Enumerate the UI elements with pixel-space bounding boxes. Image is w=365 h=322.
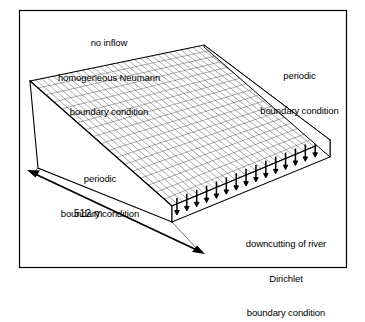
domain-length-label: 512 m — [58, 208, 118, 220]
periodic-boundary-right-label: periodic boundary condition — [247, 47, 352, 139]
neumann-line-2: homogeneous Neumann — [34, 72, 184, 84]
periodic-boundary-left-label: periodic boundary condition — [40, 150, 160, 242]
neumann-line-3: boundary condition — [34, 106, 184, 118]
periodic-right-line-2: boundary condition — [247, 105, 352, 117]
periodic-left-line-1: periodic — [40, 173, 160, 185]
neumann-line-1: no inflow — [34, 37, 184, 49]
dirichlet-line-3: boundary condition — [216, 307, 356, 319]
dirichlet-line-2: Dirichlet — [216, 273, 356, 285]
dirichlet-line-1: downcutting of river — [216, 238, 356, 250]
no-inflow-neumann-label: no inflow homogeneous Neumann boundary c… — [34, 14, 184, 141]
downcutting-dirichlet-label: downcutting of river Dirichlet boundary … — [216, 215, 356, 322]
periodic-right-line-1: periodic — [247, 70, 352, 82]
